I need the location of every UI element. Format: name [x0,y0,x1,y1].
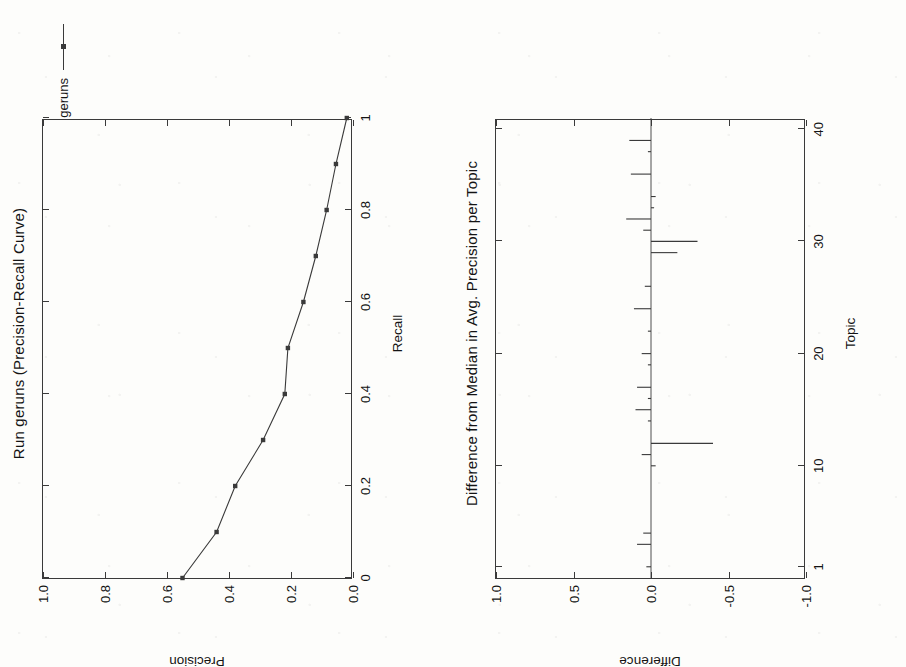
y-tick-label: 1.0 [36,585,51,603]
data-point-marker [283,392,287,396]
chart-title-precision-recall: Run geruns (Precision-Recall Curve) [10,0,27,667]
x-tick [43,485,49,486]
x-tick [43,209,49,210]
legend-precision-recall: geruns [56,24,71,118]
x-tick [345,577,351,578]
data-point-marker [286,346,290,350]
y-tick [353,120,354,126]
y-tick [729,572,730,578]
y-tick-label: 0.0 [644,585,659,603]
y-tick [43,120,44,126]
x-tick [43,393,49,394]
x-tick-label: 1 [811,563,826,570]
x-axis-title-topic: Topic [843,0,858,667]
y-tick [574,572,575,578]
x-tick [798,353,804,354]
x-tick [798,128,804,129]
y-tick [729,120,730,126]
data-point-marker [261,438,265,442]
y-tick [43,572,44,578]
precision-recall-line [183,118,347,578]
y-tick-label: 0.5 [566,585,581,603]
data-point-marker [301,300,305,304]
y-tick [105,120,106,126]
y-tick [167,120,168,126]
y-tick-label: 0.0 [346,585,361,603]
data-point-marker [180,576,184,580]
x-tick-label: 40 [811,122,826,136]
x-axis-title-recall: Recall [390,0,405,667]
scanned-page: Run geruns (Precision-Recall Curve) 00.2… [0,0,906,667]
x-tick [345,209,351,210]
y-tick-label: 1.0 [489,585,504,603]
plot-area-precision-recall: 00.20.40.60.810.00.20.40.60.81.0 [42,119,352,579]
y-tick [353,572,354,578]
x-tick [496,465,502,466]
x-tick-label: 30 [811,234,826,248]
x-tick-label: 20 [811,346,826,360]
precision-recall-chart: Run geruns (Precision-Recall Curve) 00.2… [0,0,453,667]
y-tick [167,572,168,578]
y-tick [105,572,106,578]
y-tick [496,120,497,126]
y-tick-label: 0.4 [222,585,237,603]
y-tick [651,120,652,126]
y-tick [651,572,652,578]
y-tick [496,572,497,578]
x-tick-label: 10 [811,459,826,473]
difference-per-topic-chart: Difference from Median in Avg. Precision… [453,0,906,667]
x-tick [43,117,49,118]
x-tick [345,301,351,302]
data-point-marker [314,254,318,258]
data-point-marker [334,162,338,166]
y-tick [229,120,230,126]
x-tick [798,465,804,466]
legend-key-geruns [63,24,64,70]
y-tick-label: -0.5 [721,585,736,607]
x-tick-label: 0 [358,574,373,581]
x-tick [345,485,351,486]
y-tick-label: 0.6 [160,585,175,603]
x-tick [798,240,804,241]
data-point-marker [214,530,218,534]
y-tick-label: 0.8 [98,585,113,603]
y-tick-label: -1.0 [799,585,814,607]
data-point-marker [324,208,328,212]
y-tick [806,120,807,126]
y-tick [574,120,575,126]
x-tick-label: 0.4 [358,385,373,403]
x-tick [345,393,351,394]
x-tick [496,128,502,129]
precision-recall-series-layer [43,118,353,578]
y-tick [229,572,230,578]
difference-impulse-layer [496,118,806,578]
plot-area-difference: 110203040-1.0-0.50.00.51.0 [495,119,805,579]
y-axis-title-difference: Difference [619,654,680,667]
x-tick [43,301,49,302]
y-axis-title-precision: Precision [169,654,225,667]
x-tick-label: 1 [358,114,373,121]
x-tick [496,353,502,354]
y-tick [291,572,292,578]
legend-label-geruns: geruns [56,78,71,118]
chart-title-difference: Difference from Median in Avg. Precision… [463,0,480,667]
y-tick [291,120,292,126]
x-tick [496,566,502,567]
x-tick-label: 0.2 [358,477,373,495]
data-point-marker [233,484,237,488]
x-tick [345,117,351,118]
x-tick [798,566,804,567]
x-tick [496,240,502,241]
x-tick-label: 0.6 [358,293,373,311]
y-tick [806,572,807,578]
x-tick-label: 0.8 [358,201,373,219]
y-tick-label: 0.2 [284,585,299,603]
